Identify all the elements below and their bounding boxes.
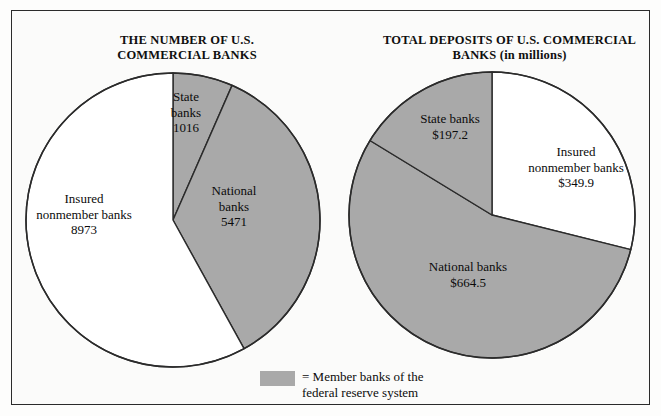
legend-label-member-banks: = Member banks of the federal reserve sy… — [302, 369, 423, 400]
slice-label-state-banks-count: State banks 1016 — [155, 89, 217, 136]
slice-label-national-banks-count: National banks 5471 — [192, 183, 276, 230]
slice-label-insured-nonmember-banks-count: Insured nonmember banks 8973 — [20, 191, 148, 238]
slice-label-national-banks-deposits: National banks $664.5 — [403, 259, 533, 290]
legend: = Member banks of the federal reserve sy… — [260, 369, 423, 400]
slice-label-state-banks-deposits: State banks $197.2 — [393, 111, 507, 142]
figure-frame: THE NUMBER OF U.S. COMMERCIAL BANKS TOTA… — [11, 10, 650, 405]
slice-label-insured-nonmember-banks-deposits: Insured nonmember banks $349.9 — [506, 144, 646, 191]
figure-root: THE NUMBER OF U.S. COMMERCIAL BANKS TOTA… — [0, 0, 661, 416]
legend-swatch-member-banks — [260, 371, 295, 386]
